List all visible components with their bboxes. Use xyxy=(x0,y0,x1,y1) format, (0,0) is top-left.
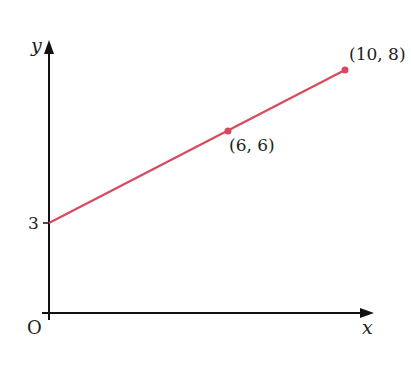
point-6-6 xyxy=(225,128,232,135)
origin-label: O xyxy=(27,319,42,337)
y-axis-arrow-icon xyxy=(44,40,54,54)
y-intercept-label: 3 xyxy=(28,215,39,232)
point-10-8 xyxy=(342,67,349,74)
point-label-end: (10, 8) xyxy=(349,46,406,63)
line-graph xyxy=(49,70,345,223)
point-label-mid: (6, 6) xyxy=(229,137,275,154)
y-axis-label: y xyxy=(31,36,42,55)
x-axis-label: x xyxy=(362,318,373,337)
